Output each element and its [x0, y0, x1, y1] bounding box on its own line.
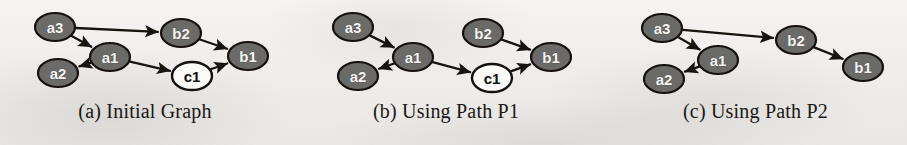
node-b1-label: b1	[542, 49, 560, 66]
node-b1[interactable]: b1	[843, 53, 883, 81]
panel-c: a3a1a2b2b1(c) Using Path P2	[604, 0, 907, 145]
node-a3-label: a3	[654, 20, 671, 37]
panel-a-caption: (a) Initial Graph	[0, 96, 290, 126]
edge-a1-to-c1	[130, 62, 170, 71]
edge-a1-to-a2	[379, 64, 394, 69]
node-b2-label: b2	[474, 25, 492, 42]
node-b2-label: b2	[787, 32, 805, 49]
node-c1-label: c1	[484, 70, 501, 87]
node-c1-label: c1	[184, 68, 201, 85]
node-b2[interactable]: b2	[463, 19, 503, 47]
node-a2[interactable]: a2	[38, 59, 78, 87]
edge-c1-to-b1	[511, 64, 530, 71]
panel-b-canvas: a3a1a2b2c1b1	[296, 0, 596, 96]
node-a1-label: a1	[102, 49, 119, 66]
node-a2-label: a2	[656, 71, 673, 88]
node-a3-label: a3	[47, 19, 64, 36]
node-a3[interactable]: a3	[35, 13, 75, 41]
panel-b-graph: a3a1a2b2c1b1	[296, 0, 596, 96]
panel-a-graph: a3a1a2b2c1b1	[0, 0, 290, 96]
panel-a-node-layer: a3a1a2b2c1b1	[35, 13, 268, 90]
node-a2[interactable]: a2	[338, 62, 378, 90]
graph-figure: a3a1a2b2c1b1(a) Initial Grapha3a1a2b2c1b…	[0, 0, 907, 145]
node-a1-label: a1	[405, 49, 422, 66]
panel-c-graph: a3a1a2b2b1	[604, 0, 907, 96]
node-b1[interactable]: b1	[228, 42, 268, 70]
edge-a3-to-a1	[370, 36, 394, 48]
edge-b2-to-b1	[814, 47, 842, 58]
edge-b2-to-b1	[502, 40, 530, 50]
node-a3[interactable]: a3	[642, 14, 682, 42]
panel-c-caption: (c) Using Path P2	[604, 96, 907, 126]
node-a2[interactable]: a2	[644, 65, 684, 93]
edge-a3-to-b2	[76, 28, 158, 32]
edge-a3-to-a1	[72, 36, 92, 47]
node-b2[interactable]: b2	[161, 19, 201, 47]
panel-a: a3a1a2b2c1b1(a) Initial Graph	[0, 0, 290, 145]
edge-a3-to-a1	[678, 37, 699, 49]
panel-c-node-layer: a3a1a2b2b1	[642, 14, 883, 93]
edge-a1-to-a2	[685, 67, 699, 72]
panel-b: a3a1a2b2c1b1(b) Using Path P1	[296, 0, 596, 145]
node-a2-label: a2	[50, 65, 67, 82]
node-b2-label: b2	[172, 25, 190, 42]
edge-a1-to-c1	[433, 62, 470, 72]
edge-c1-to-b1	[211, 63, 227, 69]
node-a1[interactable]: a1	[393, 43, 433, 71]
edge-a3-to-b2	[683, 30, 773, 38]
panel-b-caption: (b) Using Path P1	[296, 96, 596, 126]
node-a3-label: a3	[345, 19, 362, 36]
panel-a-canvas: a3a1a2b2c1b1	[0, 0, 290, 96]
panel-b-node-layer: a3a1a2b2c1b1	[333, 13, 571, 92]
node-a2-label: a2	[350, 68, 367, 85]
node-a1[interactable]: a1	[698, 46, 738, 74]
node-b2[interactable]: b2	[776, 26, 816, 54]
node-c1[interactable]: c1	[172, 62, 212, 90]
panel-c-canvas: a3a1a2b2b1	[604, 0, 907, 96]
node-b1-label: b1	[239, 48, 257, 65]
edge-a1-to-a2	[79, 63, 90, 66]
edge-b2-to-b1	[200, 40, 227, 49]
node-a1-label: a1	[710, 52, 727, 69]
node-c1[interactable]: c1	[472, 64, 512, 92]
node-b1[interactable]: b1	[531, 43, 571, 71]
node-a3[interactable]: a3	[333, 13, 373, 41]
node-a1[interactable]: a1	[90, 43, 130, 71]
node-b1-label: b1	[854, 59, 872, 76]
